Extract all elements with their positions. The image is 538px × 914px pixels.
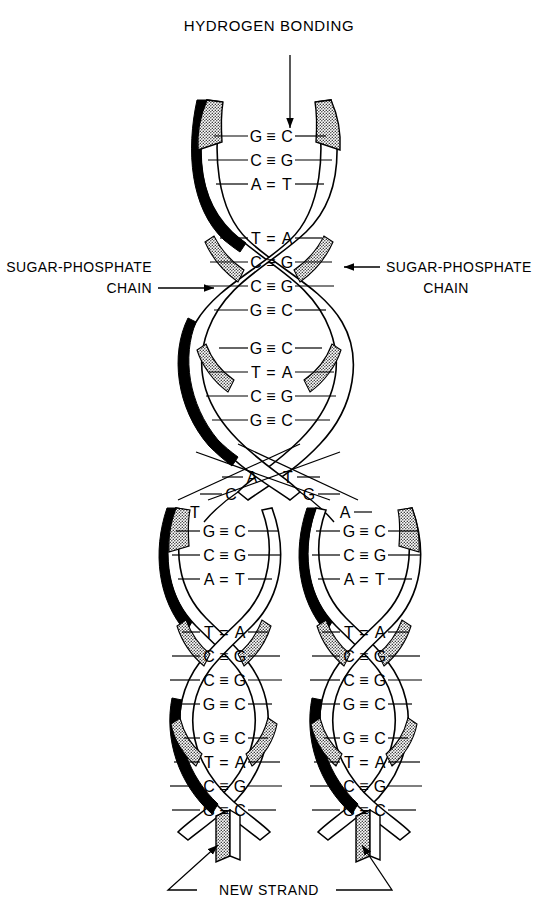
base-right: C xyxy=(281,412,293,429)
bond-symbol: ≡ xyxy=(266,412,275,429)
base-right: A xyxy=(235,754,246,771)
base-right: C xyxy=(281,340,293,357)
bond-symbol: ≡ xyxy=(219,672,228,689)
base-right: C xyxy=(374,696,386,713)
base-left: C xyxy=(250,388,262,405)
bond-symbol: ≡ xyxy=(266,302,275,319)
sugar-phosphate-left-line2: CHAIN xyxy=(106,280,152,296)
bond-symbol: ≡ xyxy=(219,802,228,819)
base-left: G xyxy=(203,523,215,540)
base-left: G xyxy=(343,802,355,819)
base-right: G xyxy=(374,778,386,795)
base-left: A xyxy=(251,176,262,193)
bond-symbol: ≡ xyxy=(266,152,275,169)
base-left: C xyxy=(250,278,262,295)
bond-symbol: ≡ xyxy=(359,778,368,795)
base-left: C xyxy=(250,152,262,169)
unpaired-base-row1-left: A xyxy=(247,469,258,486)
bond-symbol: ≡ xyxy=(266,128,275,145)
base-right: A xyxy=(235,624,246,641)
bond-symbol: = xyxy=(266,364,275,381)
bond-symbol: ≡ xyxy=(219,696,228,713)
base-left: G xyxy=(250,302,262,319)
base-left: C xyxy=(203,648,215,665)
base-right: G xyxy=(374,672,386,689)
base-right: G xyxy=(281,278,293,295)
base-left: T xyxy=(344,754,354,771)
unpaired-base-row2-left: C xyxy=(225,486,237,503)
base-left: G xyxy=(343,696,355,713)
bond-symbol: ≡ xyxy=(219,778,228,795)
base-right: C xyxy=(281,128,293,145)
base-left: T xyxy=(344,624,354,641)
base-right: T xyxy=(375,571,385,588)
bond-symbol: ≡ xyxy=(359,547,368,564)
base-right: C xyxy=(234,696,246,713)
bond-symbol: ≡ xyxy=(219,730,228,747)
base-right: G xyxy=(374,648,386,665)
bond-symbol: ≡ xyxy=(266,278,275,295)
bond-symbol: = xyxy=(219,754,228,771)
unpaired-base-row3-left: T xyxy=(190,504,200,521)
base-left: C xyxy=(343,778,355,795)
sugar-phosphate-right-line1: SUGAR-PHOSPHATE xyxy=(386,259,532,275)
bond-symbol: = xyxy=(219,571,228,588)
base-right: A xyxy=(375,624,386,641)
base-right: C xyxy=(234,523,246,540)
bond-symbol: ≡ xyxy=(359,730,368,747)
base-right: G xyxy=(234,547,246,564)
base-left: T xyxy=(251,364,261,381)
base-right: C xyxy=(234,730,246,747)
unpaired-base-row1-right: T xyxy=(283,469,293,486)
base-right: C xyxy=(374,523,386,540)
base-right: G xyxy=(281,388,293,405)
unpaired-base-row2-right: G xyxy=(303,486,315,503)
base-left: G xyxy=(343,523,355,540)
base-left: G xyxy=(250,340,262,357)
bond-symbol: ≡ xyxy=(359,696,368,713)
bond-symbol: = xyxy=(359,624,368,641)
base-right: A xyxy=(282,230,293,247)
bond-symbol: ≡ xyxy=(359,523,368,540)
base-right: G xyxy=(234,778,246,795)
base-left: C xyxy=(203,547,215,564)
bond-symbol: = xyxy=(266,230,275,247)
sugar-phosphate-left-line1: SUGAR-PHOSPHATE xyxy=(6,259,152,275)
hydrogen-bonding-label-line1: HYDROGEN BONDING xyxy=(184,17,354,34)
bond-symbol: ≡ xyxy=(266,340,275,357)
base-left: C xyxy=(343,547,355,564)
base-right: G xyxy=(374,547,386,564)
base-left: G xyxy=(250,412,262,429)
base-left: G xyxy=(250,128,262,145)
bond-symbol: ≡ xyxy=(266,388,275,405)
base-right: G xyxy=(281,152,293,169)
bond-symbol: ≡ xyxy=(219,523,228,540)
base-left: C xyxy=(343,648,355,665)
base-right: T xyxy=(235,571,245,588)
bond-symbol: = xyxy=(359,754,368,771)
bond-symbol: = xyxy=(359,571,368,588)
bond-symbol: ≡ xyxy=(359,648,368,665)
base-left: G xyxy=(203,730,215,747)
base-right: G xyxy=(234,648,246,665)
base-left: C xyxy=(203,672,215,689)
sugar-phosphate-right-line2: CHAIN xyxy=(423,280,469,296)
bond-symbol: ≡ xyxy=(359,802,368,819)
bond-symbol: ≡ xyxy=(359,672,368,689)
base-left: G xyxy=(203,696,215,713)
base-right: A xyxy=(375,754,386,771)
base-left: G xyxy=(203,802,215,819)
base-left: T xyxy=(204,754,214,771)
base-left: T xyxy=(204,624,214,641)
new-strand-label: NEW STRAND xyxy=(219,882,319,898)
base-right: G xyxy=(234,672,246,689)
base-left: A xyxy=(344,571,355,588)
base-right: C xyxy=(281,302,293,319)
base-left: G xyxy=(343,730,355,747)
bond-symbol: = xyxy=(266,176,275,193)
base-left: C xyxy=(203,778,215,795)
base-left: T xyxy=(251,230,261,247)
base-left: C xyxy=(343,672,355,689)
bond-symbol: ≡ xyxy=(219,547,228,564)
base-right: A xyxy=(282,364,293,381)
